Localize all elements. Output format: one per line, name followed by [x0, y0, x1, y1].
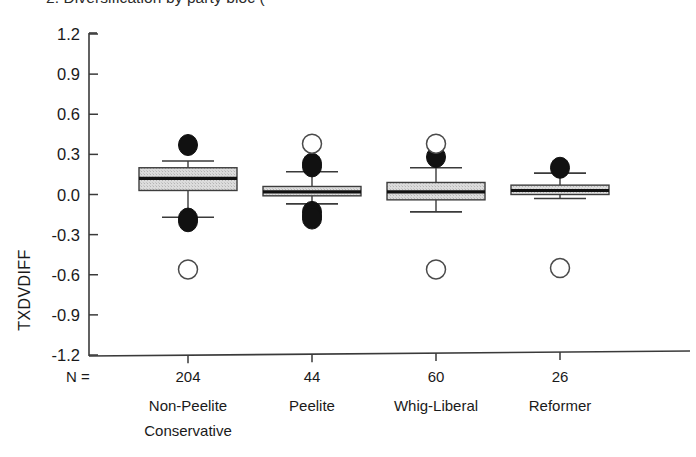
boxplot-group	[511, 157, 609, 277]
outlier-mild	[179, 260, 198, 279]
boxplot-group	[387, 134, 485, 279]
n-count-label: 44	[304, 368, 321, 385]
outlier-mild	[551, 259, 570, 278]
x-axis-line	[89, 351, 690, 356]
category-label: Reformer	[529, 397, 592, 414]
y-tick-label: -0.3	[52, 226, 80, 244]
boxplot-group	[263, 134, 361, 229]
y-tick-label: -0.9	[52, 306, 80, 324]
n-count-label: 204	[175, 368, 200, 385]
category-label: Peelite	[289, 397, 335, 414]
n-count-label: 26	[552, 368, 569, 385]
outlier-extreme	[303, 156, 322, 177]
category-label: Conservative	[144, 422, 232, 439]
category-label: Whig-Liberal	[394, 397, 478, 414]
outlier-extreme	[551, 157, 570, 178]
y-tick-label: 0.3	[57, 145, 80, 163]
n-count-label: 60	[428, 368, 445, 385]
outlier-mild	[427, 260, 446, 279]
outlier-extreme	[303, 208, 322, 229]
y-tick-label: 0.6	[57, 105, 80, 123]
outlier-extreme	[179, 211, 198, 232]
boxplot-group	[139, 135, 237, 279]
y-tick-label: 0.0	[57, 186, 80, 204]
y-tick-label: -1.2	[52, 346, 80, 364]
outlier-mild	[303, 134, 322, 153]
y-tick-label: 0.9	[57, 65, 80, 83]
category-label: Non-Peelite	[149, 397, 227, 414]
y-tick-label: -0.6	[52, 266, 80, 284]
boxplot-figure: 2. Diversification by party bloc ( TXDVD…	[0, 0, 696, 457]
y-tick-label: 1.2	[57, 25, 80, 43]
outlier-extreme	[179, 135, 198, 156]
plot-canvas: 1.20.90.60.30.0-0.3-0.6-0.9-1.2N =204Non…	[0, 0, 696, 457]
n-equals-label: N =	[66, 368, 90, 385]
outlier-mild	[427, 134, 446, 153]
